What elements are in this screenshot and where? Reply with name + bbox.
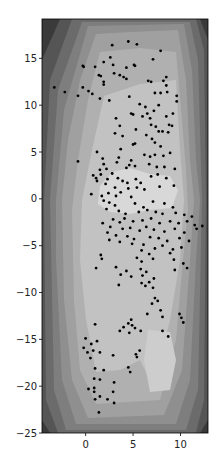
data-point bbox=[172, 206, 175, 209]
data-point bbox=[167, 335, 170, 338]
data-point bbox=[99, 173, 102, 176]
data-point bbox=[115, 117, 118, 120]
data-point bbox=[77, 160, 80, 163]
data-point bbox=[165, 84, 168, 87]
data-point bbox=[128, 95, 131, 98]
data-point bbox=[172, 248, 175, 251]
data-point bbox=[94, 65, 97, 68]
data-point bbox=[106, 178, 109, 181]
data-point bbox=[150, 123, 153, 126]
data-point bbox=[166, 240, 169, 243]
data-point bbox=[132, 113, 135, 116]
data-point bbox=[119, 148, 122, 151]
data-point bbox=[93, 377, 96, 380]
data-point bbox=[102, 199, 105, 202]
data-point bbox=[174, 212, 177, 215]
data-point bbox=[162, 79, 165, 82]
data-point bbox=[191, 215, 194, 218]
y-tick-label: 5 bbox=[31, 147, 37, 158]
data-point bbox=[173, 184, 176, 187]
data-point bbox=[124, 212, 127, 215]
data-point bbox=[63, 91, 66, 94]
data-point bbox=[159, 49, 162, 52]
data-point bbox=[99, 395, 102, 398]
data-point bbox=[146, 112, 149, 115]
data-point bbox=[121, 135, 124, 138]
data-point bbox=[136, 43, 139, 46]
data-point bbox=[105, 208, 108, 211]
data-point bbox=[133, 238, 136, 241]
data-point bbox=[84, 337, 87, 340]
data-point bbox=[108, 201, 111, 204]
data-point bbox=[94, 323, 97, 326]
data-point bbox=[135, 353, 138, 356]
data-point bbox=[148, 253, 151, 256]
data-point bbox=[125, 167, 128, 170]
data-point bbox=[90, 193, 93, 196]
y-tick-label: −15 bbox=[16, 334, 37, 345]
data-point bbox=[151, 138, 154, 141]
data-point bbox=[149, 155, 152, 158]
data-point bbox=[154, 247, 157, 250]
data-point bbox=[134, 165, 137, 168]
x-tick-label: 5 bbox=[130, 439, 136, 450]
data-point bbox=[153, 109, 156, 112]
data-point bbox=[134, 142, 137, 145]
data-point bbox=[126, 235, 129, 238]
data-point bbox=[114, 186, 117, 189]
data-point bbox=[102, 163, 105, 166]
data-point bbox=[162, 154, 165, 157]
data-point bbox=[147, 79, 150, 82]
data-point bbox=[152, 257, 155, 260]
data-point bbox=[157, 130, 160, 133]
data-point bbox=[140, 282, 143, 285]
data-point bbox=[173, 168, 176, 171]
data-point bbox=[156, 173, 159, 176]
data-point bbox=[168, 123, 171, 126]
data-point bbox=[102, 80, 105, 83]
data-point bbox=[118, 221, 121, 224]
data-point bbox=[99, 351, 102, 354]
data-point bbox=[102, 83, 105, 86]
data-point bbox=[139, 330, 142, 333]
data-point bbox=[171, 124, 174, 127]
data-point bbox=[144, 285, 147, 288]
data-point bbox=[183, 231, 186, 234]
data-point bbox=[140, 249, 143, 252]
data-point bbox=[114, 132, 117, 135]
data-point bbox=[99, 254, 102, 257]
data-point bbox=[138, 349, 141, 352]
data-point bbox=[121, 227, 124, 230]
data-point bbox=[95, 177, 98, 180]
data-point bbox=[108, 239, 111, 242]
data-point bbox=[193, 224, 196, 227]
data-point bbox=[93, 390, 96, 393]
data-point bbox=[165, 177, 168, 180]
data-point bbox=[113, 381, 116, 384]
y-tick-label: 15 bbox=[24, 53, 37, 64]
data-point bbox=[119, 191, 122, 194]
data-point bbox=[99, 97, 102, 100]
data-point bbox=[144, 106, 147, 109]
data-point bbox=[130, 318, 133, 321]
data-point bbox=[173, 269, 176, 272]
data-point bbox=[105, 168, 108, 171]
data-point bbox=[115, 266, 118, 269]
data-point bbox=[180, 246, 183, 249]
data-point bbox=[113, 72, 116, 75]
data-point bbox=[165, 115, 168, 118]
data-point bbox=[123, 217, 126, 220]
data-point bbox=[101, 222, 104, 225]
data-point bbox=[143, 153, 146, 156]
data-point bbox=[90, 343, 93, 346]
y-tick-label: −25 bbox=[16, 428, 37, 439]
data-point bbox=[91, 93, 94, 96]
x-tick-label: 0 bbox=[82, 439, 88, 450]
data-point bbox=[126, 182, 129, 185]
data-point bbox=[154, 92, 157, 95]
data-point bbox=[111, 172, 114, 175]
data-point bbox=[112, 354, 115, 357]
data-point bbox=[127, 40, 130, 43]
data-point bbox=[180, 316, 183, 319]
data-point bbox=[169, 220, 172, 223]
